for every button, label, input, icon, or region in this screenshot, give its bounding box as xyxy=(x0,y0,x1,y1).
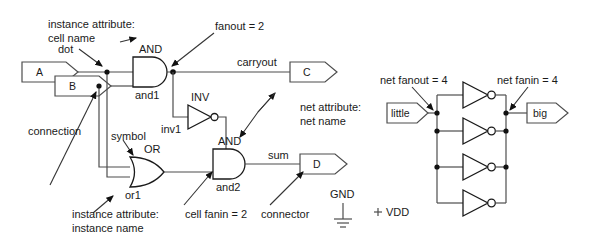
annotation-symbol: symbol xyxy=(111,130,146,142)
junction-dot-big xyxy=(503,110,508,115)
junction-dot-bus-left-2 xyxy=(434,128,439,133)
wire-b-to-or1 xyxy=(99,86,130,167)
annotation-net-fanout: net fanout = 4 xyxy=(380,74,448,86)
annotation-net-attribute-line1: net attribute: xyxy=(300,101,361,113)
leader-cell-name xyxy=(120,38,136,42)
net-label-carryout: carryout xyxy=(237,56,277,68)
gnd-symbol: GND xyxy=(330,188,355,227)
gate-and1-cell-label: AND xyxy=(139,43,162,55)
annotation-cell-fanin: cell fanin = 2 xyxy=(185,208,247,220)
wire-a-to-or1 xyxy=(107,72,130,177)
leader-dot xyxy=(79,49,102,66)
schematic-canvas: A B AND and1 carryout INV in xyxy=(0,0,591,244)
vdd-label: VDD xyxy=(386,206,409,218)
input-connector-little-label: little xyxy=(391,107,410,119)
gate-and1-instance-label: and1 xyxy=(135,89,159,101)
leader-cell-fanin xyxy=(184,172,212,205)
gate-inv1[interactable] xyxy=(188,105,218,129)
inverter-1[interactable] xyxy=(463,82,495,108)
gate-and2[interactable] xyxy=(213,149,245,179)
junction-dot-b xyxy=(96,83,101,88)
input-connector-little[interactable]: little xyxy=(387,103,428,123)
schematic-figure: A B AND and1 carryout INV in xyxy=(0,0,591,244)
input-connector-b[interactable]: B xyxy=(55,76,111,96)
output-connector-d-label: D xyxy=(313,158,321,170)
leader-symbol xyxy=(123,140,133,155)
junction-dot-bus-right-2 xyxy=(503,128,508,133)
leader-net-fanin xyxy=(510,87,528,110)
annotation-connector: connector xyxy=(261,208,310,220)
annotation-dot: dot xyxy=(58,43,73,55)
junction-dot-bus-left-3 xyxy=(434,164,439,169)
output-connector-big[interactable]: big xyxy=(527,103,568,123)
gate-or1[interactable] xyxy=(130,157,164,187)
input-connector-a-label: A xyxy=(36,66,43,78)
annotation-instance-attribute-name-line2: instance name xyxy=(72,222,144,234)
gate-and2-cell-label: AND xyxy=(218,135,241,147)
annotation-fanout: fanout = 2 xyxy=(215,20,264,32)
gate-inv1-cell-label: INV xyxy=(191,91,210,103)
junction-dot-a xyxy=(104,69,109,74)
input-connector-b-label: B xyxy=(69,80,76,92)
wire-carryout-to-inv1 xyxy=(173,72,188,117)
annotation-connection: connection xyxy=(28,125,81,137)
inverter-3[interactable] xyxy=(463,154,495,180)
inverter-4[interactable] xyxy=(463,190,495,216)
net-label-sum: sum xyxy=(268,149,289,161)
annotation-net-fanin: net fanin = 4 xyxy=(497,74,558,86)
gate-or1-instance-label: or1 xyxy=(125,189,141,201)
vdd-symbol: VDD xyxy=(374,206,409,218)
inverter-2[interactable] xyxy=(463,118,495,144)
gnd-label: GND xyxy=(330,188,355,200)
leader-fanout xyxy=(172,33,214,66)
gate-inv1-instance-label: inv1 xyxy=(161,123,181,135)
leader-connection xyxy=(50,92,96,185)
output-connector-big-label: big xyxy=(533,107,547,119)
annotation-instance-attribute-cell-line1: instance attribute: xyxy=(48,18,135,30)
junction-dot-bus-right-3 xyxy=(503,164,508,169)
gate-or1-cell-label: OR xyxy=(144,143,161,155)
junction-dot-little xyxy=(434,110,439,115)
output-connector-c-label: C xyxy=(303,66,311,78)
gate-and1[interactable] xyxy=(133,57,167,87)
output-connector-c[interactable]: C xyxy=(290,62,337,82)
leader-connector xyxy=(270,172,303,205)
annotation-instance-attribute-name-line1: instance attribute: xyxy=(72,208,159,220)
gate-and2-instance-label: and2 xyxy=(216,181,240,193)
output-connector-d[interactable]: D xyxy=(300,154,347,174)
leader-net-name-down xyxy=(240,93,275,137)
annotation-net-attribute-line2: net name xyxy=(300,115,346,127)
